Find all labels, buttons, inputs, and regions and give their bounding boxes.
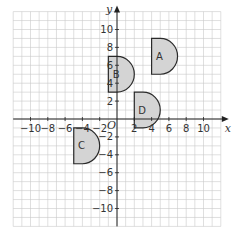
shape-label-c: C [78,140,85,151]
y-tick-label: 10 [100,24,113,35]
y-tick-label: −4 [98,149,113,160]
x-tick-label: −8 [40,123,55,134]
x-tick-label: −6 [58,123,73,134]
x-tick-label: 10 [197,123,210,134]
y-tick-label: −2 [98,131,113,142]
x-tick-label: 8 [183,123,189,134]
x-tick-label: −4 [75,123,90,134]
y-tick-label: 8 [107,42,113,53]
coordinate-plane: −10−8−6−4−2246810−10−8−6−4−2246810xyOABC… [0,0,234,237]
x-axis-label: x [225,122,232,135]
shape-label-a: A [156,51,163,62]
y-tick-label: −8 [98,185,113,196]
x-tick-label: −10 [20,123,41,134]
x-tick-label: 4 [148,123,154,134]
x-tick-label: 2 [131,123,137,134]
y-tick-label: −6 [98,167,113,178]
y-axis-arrow-icon [114,6,120,13]
x-tick-label: 6 [166,123,172,134]
shape-label-b: B [113,69,120,80]
origin-label: O [107,119,116,132]
y-tick-label: 2 [107,96,113,107]
shape-label-d: D [138,105,146,116]
y-axis-label: y [105,3,113,16]
y-tick-label: −10 [92,203,113,214]
